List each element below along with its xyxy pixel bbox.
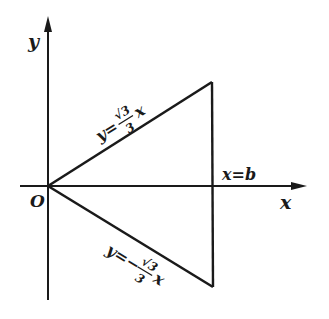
svg-text:y=−: y=−	[102, 240, 144, 275]
diagram-canvas: y x O x=b y= √3 3 x y=− √3 3 x	[0, 0, 329, 319]
lower-line-equation: y=− √3 3 x	[98, 235, 171, 296]
upper-line-equation: y= √3 3 x	[89, 96, 153, 152]
svg-text:x: x	[129, 100, 148, 122]
y-axis-label: y	[27, 30, 41, 52]
x-axis-label: x	[279, 191, 292, 213]
vertical-line-label: x=b	[221, 165, 256, 184]
origin-label: O	[30, 191, 45, 211]
svg-text:3: 3	[123, 120, 138, 136]
vertical-line-x-eq-b	[212, 82, 213, 287]
triangle-region-diagram: y x O x=b y= √3 3 x y=− √3 3 x	[0, 0, 329, 319]
x-axis-arrow-icon	[291, 182, 307, 190]
y-axis-arrow-icon	[44, 16, 52, 32]
